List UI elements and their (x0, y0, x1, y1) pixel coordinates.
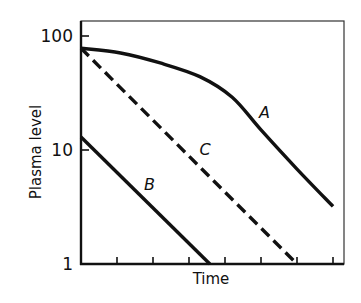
y-axis-title: Plasma level (27, 105, 45, 199)
plot-frame (81, 21, 344, 264)
curve-label-c: C (200, 140, 212, 159)
curve-label-b: B (144, 175, 155, 194)
curve-label-a: A (258, 103, 270, 122)
y-tick-label: 10 (51, 140, 73, 160)
curve-a (81, 48, 333, 206)
x-axis-title: Time (192, 270, 230, 288)
plasma-level-chart: 110100 ABC Plasma level Time (0, 0, 361, 303)
y-tick-label: 100 (41, 26, 73, 46)
y-tick-label: 1 (62, 254, 73, 274)
curve-c (81, 48, 297, 264)
